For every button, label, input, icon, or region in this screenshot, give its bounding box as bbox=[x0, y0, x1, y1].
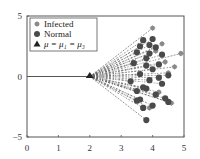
data-point bbox=[159, 81, 165, 87]
x-tick-label: 3 bbox=[119, 143, 124, 153]
y-tick-label: 0 bbox=[18, 72, 23, 82]
legend-label-normal: Normal bbox=[44, 29, 72, 39]
x-tick-label: 5 bbox=[182, 143, 187, 153]
legend-label-infected: Infected bbox=[44, 19, 74, 29]
data-point bbox=[156, 75, 162, 81]
data-point bbox=[128, 78, 134, 84]
data-point bbox=[137, 43, 143, 49]
legend: Infected Normal μ = μ₁ = μ₃ bbox=[30, 18, 97, 51]
data-point bbox=[146, 77, 152, 83]
circle-icon bbox=[34, 31, 40, 37]
data-point bbox=[137, 71, 143, 77]
data-point bbox=[165, 72, 171, 78]
scatter-chart: 012345 50−5 Infected Normal μ = μ₁ = μ₃ bbox=[0, 0, 200, 159]
data-point bbox=[143, 117, 149, 123]
data-point bbox=[150, 36, 156, 42]
data-point bbox=[140, 105, 146, 111]
data-point bbox=[134, 98, 140, 104]
data-point bbox=[162, 95, 168, 101]
data-point bbox=[134, 88, 140, 94]
x-tick-label: 1 bbox=[56, 143, 61, 153]
data-point bbox=[143, 63, 149, 69]
y-tick-label: 5 bbox=[18, 11, 23, 21]
data-point bbox=[146, 42, 152, 48]
data-point bbox=[153, 44, 159, 50]
data-point bbox=[153, 92, 159, 98]
data-point bbox=[159, 52, 165, 58]
data-point bbox=[150, 102, 156, 108]
y-tick-label: −5 bbox=[12, 132, 22, 142]
x-tick-label: 2 bbox=[88, 143, 93, 153]
data-point bbox=[146, 50, 152, 56]
data-point bbox=[150, 66, 156, 72]
data-point bbox=[140, 37, 146, 43]
data-point bbox=[143, 86, 149, 92]
data-point bbox=[134, 49, 140, 55]
data-point bbox=[156, 61, 162, 67]
data-point bbox=[131, 60, 137, 66]
star-icon bbox=[34, 21, 40, 27]
x-tick-label: 0 bbox=[25, 143, 30, 153]
x-tick-label: 4 bbox=[150, 143, 155, 153]
legend-label-mean: μ = μ₁ = μ₃ bbox=[43, 39, 85, 49]
